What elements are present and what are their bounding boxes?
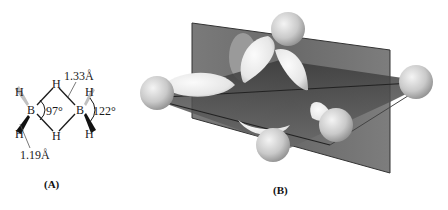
hydrogen-sphere-bottom: [256, 128, 290, 162]
diborane-structure-svg: B B H H H H H H 1.33Å 1.19Å 97° 122°: [0, 0, 140, 210]
bond-length-bridge: 1.33Å: [64, 69, 94, 83]
caption-a: (A): [44, 178, 59, 190]
atom-boron-right: B: [76, 103, 84, 117]
hydrogen-sphere-left: [140, 76, 174, 110]
atom-h-terminal-left-bottom: H: [15, 127, 24, 141]
hydrogen-sphere-top: [271, 12, 305, 46]
angle-arc-97: [40, 100, 45, 120]
atom-boron-left: B: [27, 103, 35, 117]
angle-terminal: 122°: [93, 104, 116, 118]
angle-bridge: 97°: [46, 104, 63, 118]
hydrogen-sphere-right: [399, 65, 433, 99]
caption-b: (B): [273, 184, 288, 196]
diborane-structure-diagram: B B H H H H H H 1.33Å 1.19Å 97° 122° (A): [0, 0, 140, 210]
bond-length-terminal: 1.19Å: [20, 148, 50, 162]
leader-line-133: [68, 82, 76, 97]
orbital-3d-svg: [140, 0, 448, 210]
atom-h-bridge-top: H: [52, 77, 61, 91]
hydrogen-sphere-lower-right: [319, 108, 353, 142]
atom-h-terminal-left-top: H: [15, 85, 24, 99]
orbital-3d-diagram: (B): [140, 0, 448, 210]
atom-h-bridge-bottom: H: [52, 129, 61, 143]
atom-h-terminal-right-bottom: H: [85, 127, 94, 141]
atom-h-terminal-right-top: H: [85, 85, 94, 99]
